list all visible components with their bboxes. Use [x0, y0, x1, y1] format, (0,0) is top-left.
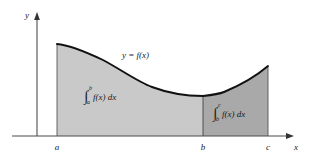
integral-integrand-left: f(x) dx	[93, 92, 116, 102]
y-axis-label: y	[24, 10, 29, 20]
region-fill-b-to-c	[203, 66, 268, 136]
tick-label-b: b	[201, 142, 206, 152]
y-axis-arrowhead	[34, 12, 40, 20]
figure-container: y x a b c y = f(x) ∫ b a f(x) dx ∫ c b f…	[0, 0, 311, 164]
curve-equation-label: y = f(x)	[121, 50, 149, 60]
integral-upper-limit-right: c	[218, 102, 221, 108]
tick-label-a: a	[55, 142, 60, 152]
x-axis-arrowhead	[286, 133, 294, 139]
integral-upper-limit-left: b	[89, 85, 92, 91]
integral-integrand-right: f(x) dx	[222, 109, 245, 119]
integral-lower-limit-right: b	[216, 116, 219, 122]
area-under-curve-figure: y x a b c y = f(x) ∫ b a f(x) dx ∫ c b f…	[0, 0, 311, 164]
x-axis-label: x	[293, 142, 298, 152]
integral-lower-limit-left: a	[87, 99, 90, 105]
tick-label-c: c	[266, 142, 270, 152]
